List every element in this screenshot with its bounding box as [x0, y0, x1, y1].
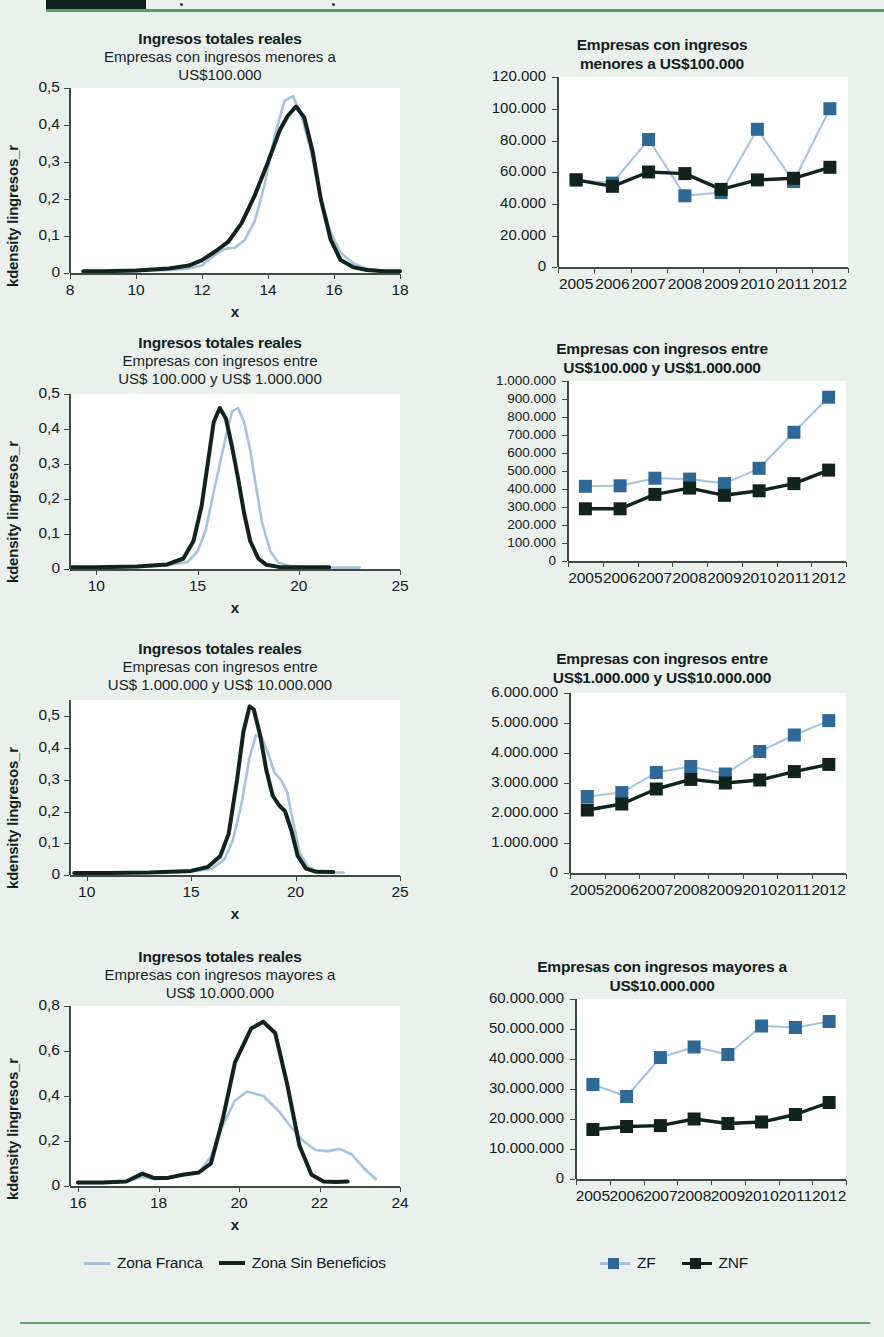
series-marker: [678, 167, 691, 180]
x-tick-label: 24: [374, 1194, 426, 1212]
x-tick-mark: [605, 874, 606, 879]
y-tick-mark: [562, 525, 567, 526]
series-marker: [614, 502, 627, 515]
y-tick-label: 800.000: [436, 409, 556, 424]
y-axis-label: kdensity lingresos_r: [4, 998, 21, 1200]
x-tick-label: 10: [70, 577, 122, 595]
x-tick-mark: [400, 274, 401, 279]
chart-subtitle-line2: US$ 100.000 y US$ 1.000.000: [28, 370, 412, 388]
x-tick-mark: [745, 1180, 746, 1185]
y-tick-mark: [564, 873, 569, 874]
x-tick-label: 10: [110, 281, 162, 299]
y-tick-label: 1.000.000: [436, 833, 558, 850]
y-tick-mark: [64, 429, 69, 430]
x-tick-mark: [638, 562, 639, 567]
x-tick-mark: [739, 268, 740, 273]
y-tick-mark: [570, 1089, 575, 1090]
x-tick-mark: [677, 1180, 678, 1185]
series-marker: [787, 426, 800, 439]
chart-title-line1: Empresas con ingresos entre: [468, 340, 856, 359]
y-tick-label: 20.000.000: [436, 1109, 564, 1126]
y-tick-mark: [552, 141, 557, 142]
series-marker: [787, 172, 800, 185]
footer-green-rule: [20, 1322, 870, 1324]
series-marker: [751, 174, 764, 187]
series-marker: [715, 183, 728, 196]
legend-item-znf[interactable]: ZNF: [682, 1254, 749, 1272]
x-tick-label: 10: [61, 883, 113, 901]
legend-item-zona-franca[interactable]: Zona Franca: [84, 1254, 203, 1272]
y-axis-label: kdensity lingresos_r: [4, 386, 21, 583]
x-axis-label: x: [70, 1216, 400, 1233]
x-tick-mark: [708, 874, 709, 879]
x-tick-mark: [400, 1187, 401, 1192]
panel-kdensity-entre-100000-1000000: Ingresos totales reales Empresas con ing…: [0, 320, 440, 626]
x-tick-label: 2012: [803, 881, 855, 899]
legend-label: ZF: [637, 1254, 656, 1272]
y-tick-mark: [64, 812, 69, 813]
x-tick-mark: [812, 874, 813, 879]
series-lines: [558, 77, 848, 267]
legend-series: ZF ZNF: [600, 1254, 748, 1272]
y-axis-label: kdensity lingresos_r: [4, 692, 21, 889]
x-tick-mark: [136, 274, 137, 279]
series-marker: [822, 391, 835, 404]
chart-row-1: Ingresos totales reales Empresas con ing…: [0, 14, 884, 320]
legend-item-zf[interactable]: ZF: [600, 1254, 656, 1272]
y-tick-mark: [64, 162, 69, 163]
series-marker: [823, 161, 836, 174]
series-marker: [789, 1108, 802, 1121]
page-header: [0, 0, 884, 14]
series-marker: [614, 479, 627, 492]
x-tick-mark: [779, 1180, 780, 1185]
y-tick-mark: [564, 783, 569, 784]
y-tick-label: 4.000.000: [436, 743, 558, 760]
x-axis-label: x: [70, 599, 400, 616]
y-axis-line: [69, 1006, 71, 1186]
x-tick-mark: [777, 562, 778, 567]
y-tick-label: 60.000: [436, 162, 546, 179]
plot-area: 0100.000200.000300.000400.000500.000600.…: [440, 377, 884, 627]
series-marker: [581, 790, 594, 803]
y-tick-label: 3.000.000: [436, 773, 558, 790]
panel-conteo-menores-100000: Empresas con ingresos menores a US$100.0…: [440, 14, 884, 320]
y-tick-label: 6.000.000: [436, 683, 558, 700]
y-tick-label: 2.000.000: [436, 803, 558, 820]
chart-subtitle-line1: Empresas con ingresos mayores a: [28, 966, 412, 984]
y-tick-label: 40.000.000: [436, 1049, 564, 1066]
kdensity-curves: [70, 88, 400, 273]
chart-title: Ingresos totales reales: [28, 334, 412, 352]
series-marker: [678, 189, 691, 202]
x-tick-mark: [558, 268, 559, 273]
series-marker: [788, 729, 801, 742]
y-tick-mark: [570, 1179, 575, 1180]
y-tick-mark: [570, 1029, 575, 1030]
x-tick-mark: [711, 1180, 712, 1185]
series-marker: [579, 502, 592, 515]
y-tick-mark: [64, 1186, 69, 1187]
y-tick-mark: [570, 1119, 575, 1120]
x-tick-mark: [811, 562, 812, 567]
legend-item-zona-sin-beneficios[interactable]: Zona Sin Beneficios: [219, 1254, 386, 1272]
y-tick-label: 100.000: [436, 535, 556, 550]
y-tick-mark: [564, 753, 569, 754]
y-tick-mark: [570, 1059, 575, 1060]
y-tick-mark: [64, 464, 69, 465]
series-marker: [753, 745, 766, 758]
x-tick-label: 25: [374, 577, 426, 595]
header-dark-block: [46, 0, 146, 9]
x-tick-label: 2012: [804, 275, 856, 293]
header-green-rule: [46, 9, 884, 12]
chart-title-line1: Empresas con ingresos entre: [468, 650, 856, 669]
plot-area: 00,10,20,30,40,510152025kdensity lingres…: [0, 694, 440, 944]
x-tick-mark: [570, 874, 571, 879]
y-axis-line: [557, 77, 559, 267]
plot-area: 00,20,40,60,81618202224kdensity lingreso…: [0, 1002, 440, 1252]
x-tick-mark: [594, 268, 595, 273]
x-tick-mark: [644, 1180, 645, 1185]
x-tick-mark: [846, 562, 847, 567]
y-axis-line: [69, 88, 71, 273]
y-tick-label: 0: [436, 1169, 564, 1186]
x-axis-label: x: [70, 303, 400, 320]
series-marker: [787, 477, 800, 490]
